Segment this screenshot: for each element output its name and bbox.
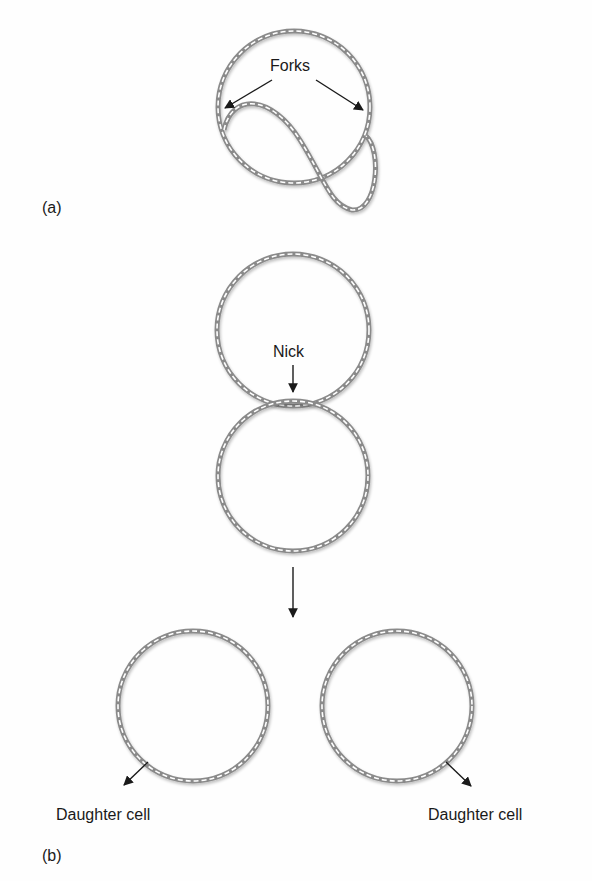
daughter-arrow-right [446, 762, 471, 786]
nick-label: Nick [273, 344, 304, 360]
daughter-arrow-left [124, 762, 148, 785]
replication-diagram [0, 0, 592, 881]
catenane-lower-circle [218, 401, 368, 551]
daughter-cell-label-left: Daughter cell [56, 807, 150, 823]
daughter-cell-label-right: Daughter cell [428, 807, 522, 823]
panel-b-label: (b) [42, 848, 62, 864]
panel-a-label: (a) [42, 200, 62, 216]
forks-arrow-right [316, 80, 363, 110]
daughter-plasmid-left [118, 631, 268, 781]
forks-label: Forks [270, 58, 310, 74]
daughter-plasmid-right [322, 631, 472, 781]
